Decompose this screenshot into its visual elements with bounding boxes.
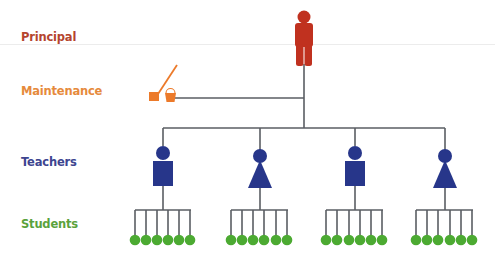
org-chart [0,0,495,262]
female-teacher-icon-2 [248,149,272,188]
male-teacher-icon-1 [153,146,173,186]
mop-bucket-icon [149,65,177,102]
female-teacher-icon-4 [433,149,457,188]
connector-lines [135,64,473,240]
student-icons [130,235,478,246]
male-teacher-icon-3 [345,146,365,186]
teacher-icons [153,146,457,188]
principal-person-icon [295,11,313,67]
